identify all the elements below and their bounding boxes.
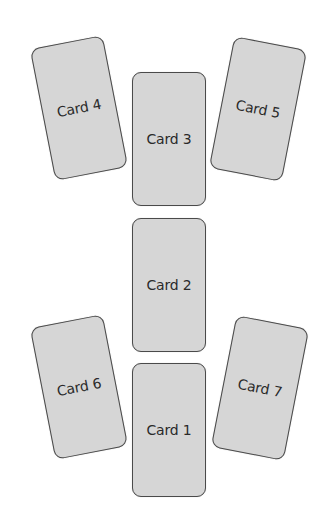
card-label: Card 5	[234, 97, 281, 121]
card-7[interactable]: Card 7	[211, 315, 309, 461]
card-label: Card 6	[55, 375, 102, 399]
card-2[interactable]: Card 2	[132, 218, 206, 352]
card-1[interactable]: Card 1	[132, 363, 206, 497]
card-label: Card 3	[147, 131, 192, 147]
card-6[interactable]: Card 6	[30, 314, 128, 460]
card-label: Card 2	[147, 277, 192, 293]
card-label: Card 4	[55, 96, 102, 120]
card-label: Card 1	[147, 422, 192, 438]
card-5[interactable]: Card 5	[209, 36, 307, 182]
card-label: Card 7	[236, 376, 283, 400]
card-3[interactable]: Card 3	[132, 72, 206, 206]
card-4[interactable]: Card 4	[30, 35, 128, 181]
